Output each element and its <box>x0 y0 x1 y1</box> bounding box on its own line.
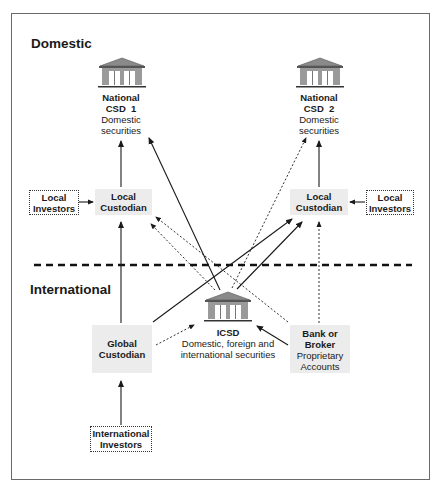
csd2-sub-line2: securities <box>284 125 354 136</box>
node-international-investors: International Investors <box>90 426 152 452</box>
node-national-csd-2: National CSD 2 Domestic securities <box>284 92 354 136</box>
csd2-title-line1: National <box>284 92 354 103</box>
global-custodian-line2: Custodian <box>92 349 152 360</box>
connector-lines <box>0 0 438 493</box>
global-custodian-line1: Global <box>92 338 152 349</box>
bank-broker-sub-line2: Accounts <box>290 361 350 372</box>
bank-broker-title-line2: Broker <box>290 339 350 350</box>
csd2-sub-line1: Domestic <box>284 114 354 125</box>
section-label-international: International <box>30 282 111 297</box>
local-custodian-right-line1: Local <box>290 191 348 202</box>
icsd-sub-line2: international securities <box>173 349 283 360</box>
icsd-title: ICSD <box>173 327 283 338</box>
node-national-csd-1: National CSD 1 Domestic securities <box>86 92 156 136</box>
section-label-domestic: Domestic <box>31 36 92 51</box>
local-investors-left-line2: Investors <box>30 203 78 214</box>
bank-building-icon <box>295 57 345 89</box>
international-investors-line2: Investors <box>91 439 151 450</box>
csd1-sub-line2: securities <box>86 125 156 136</box>
node-global-custodian: Global Custodian <box>92 325 152 373</box>
bank-building-icon <box>203 291 253 323</box>
node-icsd: ICSD Domestic, foreign and international… <box>173 327 283 360</box>
bank-broker-sub-line1: Proprietary <box>290 350 350 361</box>
node-local-investors-right: Local Investors <box>366 190 414 215</box>
international-investors-line1: International <box>91 428 151 439</box>
node-local-custodian-left: Local Custodian <box>95 189 152 215</box>
local-investors-left-line1: Local <box>30 192 78 203</box>
local-investors-right-line1: Local <box>367 192 413 203</box>
csd1-title-line2: CSD 1 <box>86 103 156 114</box>
csd1-sub-line1: Domestic <box>86 114 156 125</box>
local-custodian-right-line2: Custodian <box>290 202 348 213</box>
bank-building-icon <box>97 57 147 89</box>
bank-broker-title-line1: Bank or <box>290 328 350 339</box>
csd1-title-line1: National <box>86 92 156 103</box>
icsd-sub-line1: Domestic, foreign and <box>173 338 283 349</box>
node-local-custodian-right: Local Custodian <box>290 189 348 215</box>
node-local-investors-left: Local Investors <box>29 190 79 215</box>
local-custodian-left-line1: Local <box>95 191 152 202</box>
csd2-title-line2: CSD 2 <box>284 103 354 114</box>
local-custodian-left-line2: Custodian <box>95 202 152 213</box>
local-investors-right-line2: Investors <box>367 203 413 214</box>
node-bank-or-broker: Bank or Broker Proprietary Accounts <box>290 325 350 373</box>
